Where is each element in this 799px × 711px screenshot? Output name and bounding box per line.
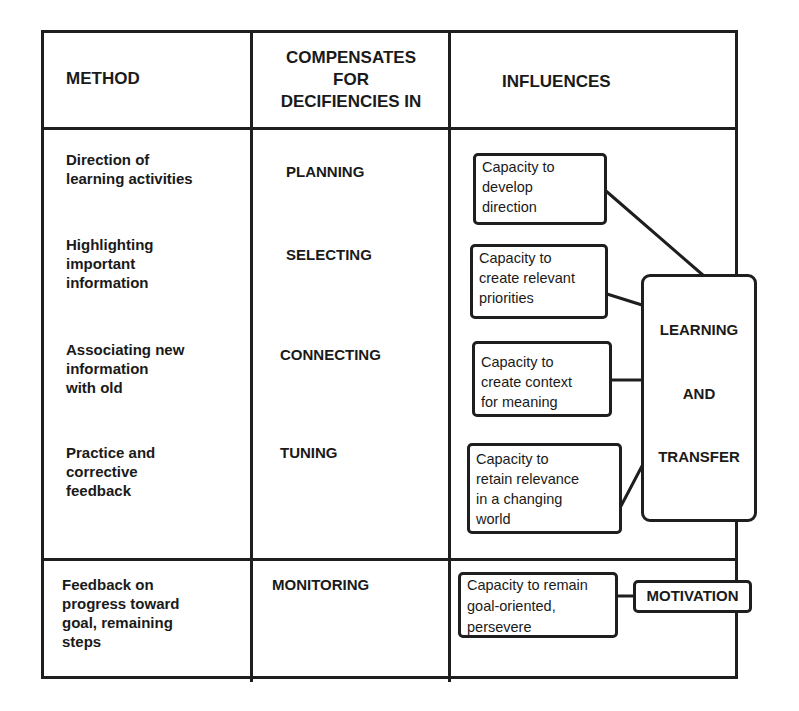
transfer-label: TRANSFER <box>644 448 754 465</box>
motivation-box: MOTIVATION <box>633 580 752 613</box>
influence-box-relevance: Capacity to retain relevance in a changi… <box>467 443 622 534</box>
connector-priorities <box>607 294 642 305</box>
influence-box-goal-oriented: Capacity to remain goal-oriented, persev… <box>458 572 618 638</box>
and-label: AND <box>644 385 754 402</box>
learning-label: LEARNING <box>644 321 754 338</box>
connector-direction <box>606 191 704 276</box>
influence-box-direction: Capacity to develop direction <box>473 153 607 225</box>
connector-relevance <box>621 466 642 506</box>
influence-box-context: Capacity to create context for meaning <box>472 341 612 417</box>
influence-box-priorities: Capacity to create relevant priorities <box>470 244 608 319</box>
learning-transfer-box: LEARNING AND TRANSFER <box>641 274 757 522</box>
